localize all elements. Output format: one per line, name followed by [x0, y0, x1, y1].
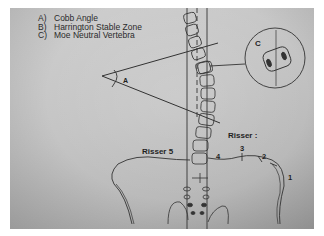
right-iliac-crest	[208, 156, 284, 224]
vertebral-column	[183, 12, 215, 164]
left-iliac-crest	[112, 157, 190, 224]
inset-label: C	[255, 39, 261, 48]
risser-5-label: Risser 5	[142, 147, 174, 156]
risser-stage-3: 3	[240, 144, 244, 153]
risser-label: Risser :	[228, 131, 257, 140]
spine-pelvis-drawing: A C Risser 5 Risser : 4 3 2 1	[10, 8, 314, 229]
risser-stage-2: 2	[262, 152, 266, 161]
neutral-vertebra-detail	[261, 45, 292, 73]
sacrum	[168, 173, 228, 224]
diagram-photo: A) Cobb Angle B) Harrington Stable Zone …	[10, 8, 314, 229]
cobb-line-upper	[102, 43, 218, 76]
risser-stage-1: 1	[288, 173, 292, 182]
inset-circle	[245, 28, 305, 88]
cobb-line-lower	[102, 76, 220, 123]
inset-leader-line	[210, 64, 245, 66]
cobb-angle-label: A	[123, 77, 128, 84]
